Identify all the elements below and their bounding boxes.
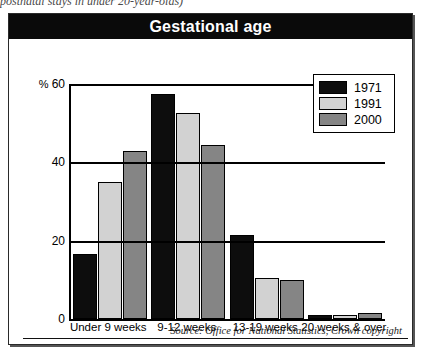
chart-legend: 197119912000 [313, 74, 395, 133]
top-caption: postnatal stays in under 20-year-olds) [0, 0, 260, 8]
y-axis-tick-40: 40 [52, 155, 65, 169]
bar [151, 94, 175, 319]
bar-group [73, 84, 148, 319]
y-axis-tick-60: %60 [39, 77, 65, 91]
legend-swatch-icon [319, 81, 347, 94]
legend-item[interactable]: 1991 [319, 96, 389, 111]
bar [308, 315, 332, 319]
legend-item[interactable]: 1971 [319, 80, 389, 95]
legend-swatch-icon [319, 113, 347, 126]
page-title: Gestational age [149, 18, 271, 36]
bar [73, 254, 97, 319]
bar [98, 182, 122, 319]
legend-item[interactable]: 2000 [319, 112, 389, 127]
bar [123, 151, 147, 319]
source-divider [23, 338, 408, 339]
bar [176, 113, 200, 319]
y-axis-unit: % [39, 78, 49, 90]
bar-group [230, 84, 305, 319]
legend-swatch-icon [319, 97, 347, 110]
legend-label: 1971 [354, 81, 382, 95]
bar [280, 280, 304, 319]
gridline-20 [71, 241, 385, 243]
bar [255, 278, 279, 319]
y-axis-tick-20: 20 [52, 234, 65, 248]
y-axis-tick-0: 0 [58, 312, 65, 326]
bar [358, 313, 382, 319]
source-note: Source: Office for National Statistics, … [170, 325, 402, 336]
bar-group [151, 84, 226, 319]
figure-frame: Gestational age 02040%60 Under 9 weeks9-… [8, 13, 413, 345]
chart-title-bar: Gestational age [9, 14, 412, 39]
gridline-40 [71, 162, 385, 164]
legend-label: 2000 [354, 113, 382, 127]
bar [230, 235, 254, 319]
chart-panel: 02040%60 Under 9 weeks9-12 weeks13-19 we… [13, 42, 408, 342]
bar [201, 145, 225, 319]
bar [333, 315, 357, 319]
category-label: Under 9 weeks [70, 321, 147, 333]
legend-label: 1991 [354, 97, 382, 111]
